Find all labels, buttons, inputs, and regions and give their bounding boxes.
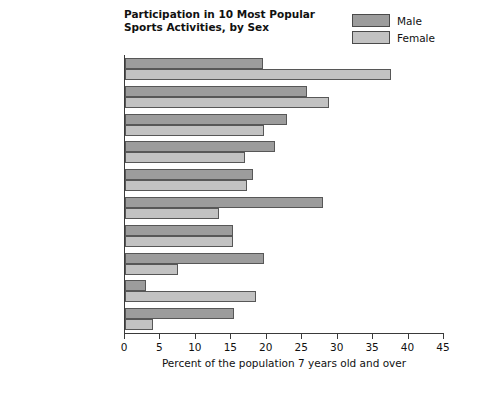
x-tick-label: 10	[180, 341, 210, 353]
x-tick	[159, 333, 160, 339]
x-tick-label: 20	[251, 341, 281, 353]
legend-label-male: Male	[397, 15, 422, 27]
bar-male	[125, 253, 264, 264]
bar-female	[125, 152, 245, 163]
bar-female	[125, 125, 264, 136]
x-tick	[408, 333, 409, 339]
bar-female	[125, 69, 391, 80]
x-tick	[124, 333, 125, 339]
x-tick-label: 5	[144, 341, 174, 353]
bar-male	[125, 280, 146, 291]
bar-female	[125, 319, 153, 330]
bar-male	[125, 197, 323, 208]
x-tick-label: 35	[357, 341, 387, 353]
x-axis-title: Percent of the population 7 years old an…	[124, 357, 444, 369]
x-tick-label: 15	[215, 341, 245, 353]
legend-swatch-female	[352, 31, 390, 44]
bar-male	[125, 169, 253, 180]
bar-female	[125, 97, 329, 108]
bar-group	[125, 225, 444, 247]
x-tick	[230, 333, 231, 339]
bar-male	[125, 225, 233, 236]
bar-group	[125, 141, 444, 163]
bar-group	[125, 58, 444, 80]
x-axis-line	[124, 333, 444, 334]
bar-group	[125, 114, 444, 136]
plot-area: 051015202530354045 Exercise walkingSwimm…	[124, 55, 443, 333]
chart-title-line-2: Sports Activities, by Sex	[124, 21, 354, 34]
x-tick-label: 0	[109, 341, 139, 353]
x-tick	[372, 333, 373, 339]
chart-title-line-1: Participation in 10 Most Popular	[124, 8, 354, 21]
bar-male	[125, 141, 275, 152]
bar-male	[125, 308, 234, 319]
x-tick-label: 40	[393, 341, 423, 353]
bar-male	[125, 58, 263, 69]
legend-item-female: Female	[352, 30, 435, 45]
bar-male	[125, 86, 307, 97]
bar-female	[125, 208, 219, 219]
bar-female	[125, 236, 233, 247]
x-tick	[195, 333, 196, 339]
x-tick-label: 30	[322, 341, 352, 353]
x-tick	[443, 333, 444, 339]
x-tick-label: 45	[428, 341, 458, 353]
legend-swatch-male	[352, 14, 390, 27]
chart-title: Participation in 10 Most Popular Sports …	[124, 8, 354, 34]
bar-group	[125, 280, 444, 302]
bar-group	[125, 253, 444, 275]
x-tick	[337, 333, 338, 339]
bar-group	[125, 169, 444, 191]
bar-female	[125, 180, 247, 191]
legend-item-male: Male	[352, 13, 435, 28]
bar-male	[125, 114, 287, 125]
x-tick	[266, 333, 267, 339]
bar-group	[125, 308, 444, 330]
chart-legend: Male Female	[352, 13, 435, 47]
bar-group	[125, 86, 444, 108]
bar-female	[125, 291, 256, 302]
bar-group	[125, 197, 444, 219]
x-tick	[301, 333, 302, 339]
bar-chart: Participation in 10 Most Popular Sports …	[0, 0, 480, 394]
bar-female	[125, 264, 178, 275]
x-tick-label: 25	[286, 341, 316, 353]
legend-label-female: Female	[397, 32, 435, 44]
